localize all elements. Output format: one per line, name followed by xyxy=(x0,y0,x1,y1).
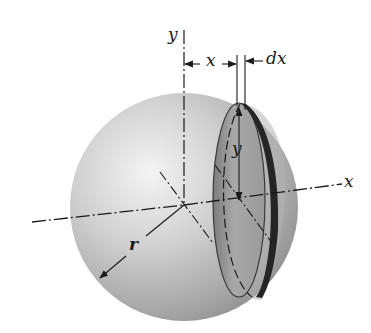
sphere-radius-label: r xyxy=(129,236,138,253)
disk-radius-label: y xyxy=(232,140,242,157)
dx-dimension-label: dx xyxy=(266,50,286,67)
y-axis-label: y xyxy=(168,26,178,43)
sphere-disk-diagram: y x dx x y r xyxy=(0,0,371,333)
diagram-canvas xyxy=(0,0,371,333)
x-axis-label: x xyxy=(344,173,354,190)
x-dimension-label: x xyxy=(206,52,216,69)
